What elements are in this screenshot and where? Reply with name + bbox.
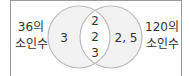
intersection-element-1: 2	[88, 14, 102, 28]
intersection-element-3: 3	[88, 46, 102, 60]
right-only-elements: 2, 5	[113, 31, 139, 45]
right-set-label-line1: 120의	[142, 19, 182, 36]
right-set-label: 120의 소인수	[142, 19, 182, 53]
left-set-label: 36의 소인수	[14, 19, 48, 53]
left-only-elements: 3	[56, 31, 72, 45]
left-set-label-line1: 36의	[14, 19, 48, 36]
intersection-element-2: 2	[88, 30, 102, 44]
left-set-label-line2: 소인수	[14, 36, 48, 53]
right-set-label-line2: 소인수	[142, 36, 182, 53]
